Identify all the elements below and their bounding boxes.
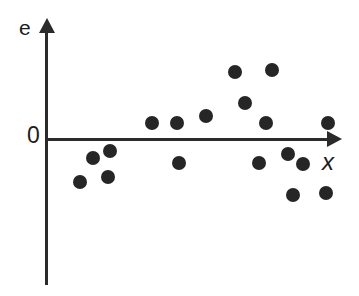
scatter-point <box>172 156 186 170</box>
scatter-point <box>73 175 87 189</box>
x-axis-line <box>46 138 333 141</box>
y-axis-label: e <box>19 17 31 38</box>
scatter-point <box>259 116 273 130</box>
scatter-point <box>252 156 266 170</box>
origin-tick-label: 0 <box>27 124 40 147</box>
scatter-point <box>199 109 213 123</box>
scatter-point <box>228 65 242 79</box>
residual-plot-figure: e x 0 <box>0 0 359 296</box>
scatter-point <box>145 116 159 130</box>
scatter-point <box>170 116 184 130</box>
y-axis-line <box>45 24 48 285</box>
y-axis-arrow-icon <box>39 18 55 33</box>
x-axis-arrow-icon <box>327 131 342 147</box>
scatter-point <box>86 151 100 165</box>
scatter-point <box>321 116 335 130</box>
scatter-point <box>296 157 310 171</box>
scatter-point <box>101 170 115 184</box>
scatter-point <box>103 144 117 158</box>
scatter-point <box>286 188 300 202</box>
x-axis-label: x <box>322 150 334 174</box>
scatter-point <box>281 147 295 161</box>
scatter-point <box>238 96 252 110</box>
scatter-point <box>265 63 279 77</box>
scatter-point <box>319 186 333 200</box>
